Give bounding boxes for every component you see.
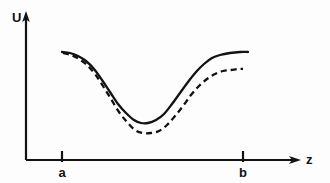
y-axis-label: U	[12, 11, 21, 24]
y-axis	[22, 11, 30, 160]
solid-potential-curve	[62, 52, 248, 123]
tick-label-b: b	[237, 166, 249, 179]
curves-group	[62, 52, 248, 133]
plot-canvas	[0, 0, 330, 183]
x-axis	[26, 156, 301, 164]
potential-energy-diagram: U z a b	[0, 0, 330, 183]
x-axis-label: z	[306, 153, 313, 166]
tick-label-a: a	[56, 166, 68, 179]
